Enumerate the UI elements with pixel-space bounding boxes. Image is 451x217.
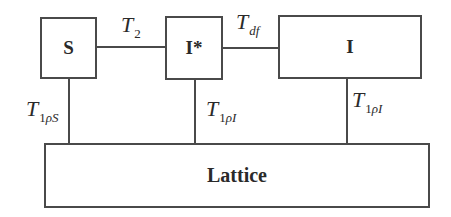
label-t1rho-i-star-symbol: T: [206, 96, 218, 121]
edge-i-star-to-lattice: [194, 78, 196, 144]
label-tdf: Tdf: [236, 11, 259, 33]
node-lattice-label: Lattice: [207, 164, 267, 187]
spin-relaxation-diagram: S I* I Lattice T2 Tdf T1ρS T1ρI T1ρI: [0, 0, 451, 217]
label-t1rho-i-star-subscript: 1ρI: [219, 110, 236, 125]
node-s: S: [40, 17, 97, 79]
edge-i-star-to-i: [222, 47, 279, 49]
label-t1rho-s-subscript: 1ρS: [39, 110, 58, 125]
label-t2-subscript: 2: [134, 26, 141, 41]
label-t1rho-i-subscript: 1ρI: [365, 101, 382, 116]
label-tdf-subscript: df: [249, 23, 259, 38]
label-tdf-symbol: T: [236, 9, 248, 34]
label-t2-symbol: T: [121, 12, 133, 37]
label-t1rho-s: T1ρS: [26, 98, 59, 120]
node-i-star-label: I*: [186, 37, 203, 59]
label-t2: T2: [121, 14, 141, 36]
label-t1rho-i-symbol: T: [352, 87, 364, 112]
label-t1rho-s-symbol: T: [26, 96, 38, 121]
node-s-label: S: [63, 37, 74, 59]
label-t1rho-i-star: T1ρI: [206, 98, 236, 120]
node-i-star: I*: [165, 16, 223, 80]
edge-s-to-lattice: [68, 77, 70, 144]
node-i-label: I: [346, 36, 353, 58]
edge-s-to-i-star: [96, 46, 166, 48]
node-i: I: [278, 15, 422, 79]
edge-i-to-lattice: [346, 77, 348, 144]
node-lattice: Lattice: [44, 143, 430, 208]
label-t1rho-i: T1ρI: [352, 89, 382, 111]
